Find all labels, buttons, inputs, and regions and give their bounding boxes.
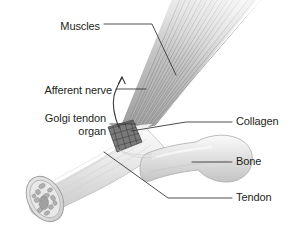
label-tendon: Tendon xyxy=(236,191,272,204)
label-collagen: Collagen xyxy=(236,115,279,128)
anatomy-figure: Muscles Afferent nerve Golgi tendon orga… xyxy=(0,0,289,230)
label-golgi-tendon-organ-line2: organ xyxy=(6,125,106,138)
muscle-fiber-fan xyxy=(118,0,289,133)
label-bone: Bone xyxy=(236,155,261,168)
label-afferent-nerve: Afferent nerve xyxy=(2,84,112,97)
label-muscles: Muscles xyxy=(20,20,100,33)
label-golgi-tendon-organ-line1: Golgi tendon xyxy=(6,112,106,125)
label-golgi-tendon-organ: Golgi tendon organ xyxy=(6,112,106,138)
